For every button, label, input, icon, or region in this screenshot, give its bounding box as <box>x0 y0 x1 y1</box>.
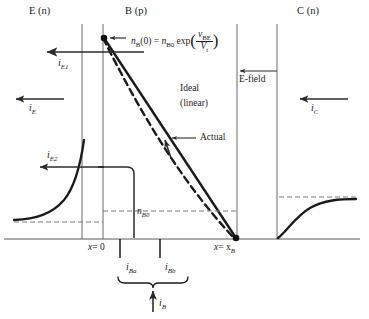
current-label-iE2-sub: E2 <box>50 155 58 163</box>
current-label-iE1-sub: E1 <box>61 63 69 71</box>
equation-equals: = <box>154 36 159 46</box>
current-label-iE2: iE2 <box>47 150 58 163</box>
nb0-sub: B0 <box>142 211 150 218</box>
x-xb-sub: B <box>231 247 235 254</box>
axis-label-x-zero: x= 0 <box>88 243 105 253</box>
current-label-iBb: iBb <box>165 262 176 275</box>
current-label-iC: iC <box>311 103 318 116</box>
current-label-iB-sub: B <box>162 303 166 311</box>
boundary-concentration-equation: nB(0) = nB0 exp( vBE Vt ) <box>131 30 219 53</box>
equation-exponent-fraction: vBE Vt <box>196 30 213 53</box>
annotation-ideal-line2: (linear) <box>180 99 208 109</box>
annotation-actual: Actual <box>200 133 225 143</box>
nb0-boundary-point-dot <box>101 35 108 42</box>
current-label-iBa-sub: Ba <box>129 267 137 275</box>
collector-minority-carrier-curve <box>278 199 356 238</box>
exponent-den-sub: t <box>206 45 208 52</box>
current-label-iE-sub: E <box>32 108 36 116</box>
equation-right-paren: ) <box>213 34 219 48</box>
current-label-iB: iB <box>159 298 166 311</box>
equation-exp-fn: exp <box>177 36 191 46</box>
current-label-iE: iE <box>29 103 36 116</box>
iE2-rounded-corner-line <box>104 167 134 238</box>
equation-rhs-sub: B0 <box>166 41 174 48</box>
exponent-numerator: vBE <box>196 30 213 41</box>
current-label-iC-sub: C <box>314 108 319 116</box>
annotation-ideal-line1: Ideal <box>180 84 199 94</box>
base-current-brace <box>118 277 188 288</box>
x-zero-eq: = 0 <box>92 242 104 252</box>
region-label-emitter: E (n) <box>29 6 50 17</box>
equation-lhs-arg: (0) <box>140 36 151 46</box>
x-xb-eq: = x <box>218 242 230 252</box>
axis-label-x-xb: x= xB <box>214 243 235 255</box>
region-label-base: B (p) <box>125 6 147 17</box>
current-label-iBb-sub: Bb <box>168 267 176 275</box>
exponent-num-sub: BE <box>202 33 211 40</box>
annotation-nb0-level: nB0 <box>137 207 149 219</box>
current-label-iE1: iE1 <box>58 58 69 71</box>
exponent-denominator: Vt <box>196 41 213 53</box>
region-label-collector: C (n) <box>297 6 319 17</box>
xb-endpoint-dot <box>233 235 240 242</box>
current-label-iBa: iBa <box>126 262 137 275</box>
annotation-efield: E-field <box>239 75 265 85</box>
minority-carrier-concentration-diagram: E (n) B (p) C (n) nB(0) = nB0 exp( vBE V… <box>0 0 369 319</box>
